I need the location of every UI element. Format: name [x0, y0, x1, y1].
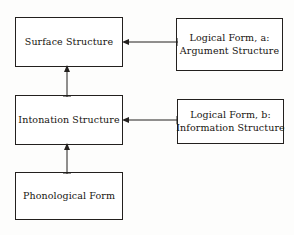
node-intonation-structure-label: Intonation Structure — [18, 114, 119, 127]
node-phonological-form: Phonological Form — [15, 172, 123, 220]
node-surface-structure-label: Surface Structure — [25, 36, 113, 49]
arrow-logical-form-a-to-surface-structure — [122, 36, 178, 48]
node-logical-form-a-label-line1: Logical Form, a: — [189, 32, 269, 45]
node-intonation-structure: Intonation Structure — [15, 95, 123, 145]
arrow-logical-form-b-to-intonation-structure — [122, 114, 178, 126]
node-logical-form-b-label-line2: Information Structure — [176, 122, 285, 135]
node-logical-form-b: Logical Form, b: Information Structure — [177, 99, 284, 144]
arrow-intonation-structure-to-surface-structure — [61, 65, 73, 97]
node-logical-form-a-label-line2: Argument Structure — [180, 45, 279, 58]
node-phonological-form-label: Phonological Form — [23, 190, 115, 203]
node-logical-form-a: Logical Form, a: Argument Structure — [176, 18, 283, 71]
node-surface-structure: Surface Structure — [15, 17, 123, 67]
node-logical-form-b-label-line1: Logical Form, b: — [190, 109, 270, 122]
diagram-canvas: Surface Structure Intonation Structure P… — [0, 0, 294, 235]
arrow-phonological-form-to-intonation-structure — [61, 143, 73, 174]
